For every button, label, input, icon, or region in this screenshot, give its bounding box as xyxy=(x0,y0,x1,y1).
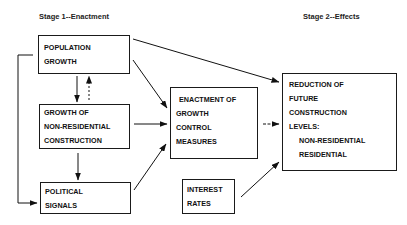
arrow-population-to-political xyxy=(18,55,37,203)
node-label-line: GROWTH xyxy=(176,110,209,118)
node-label-line: LEVELS: xyxy=(289,123,319,131)
node-label-line: POLITICAL xyxy=(45,188,83,196)
node-label-line: MEASURES xyxy=(176,138,217,146)
node-label-line: CONSTRUCTION xyxy=(289,109,347,117)
node-label-line: SIGNALS xyxy=(45,202,77,210)
node-population-growth: POPULATION GROWTH xyxy=(38,35,130,74)
node-label-line: FUTURE xyxy=(289,95,318,103)
node-interest-rates: INTEREST RATES xyxy=(182,179,235,214)
node-label-line: NON-RESIDENTIAL xyxy=(44,123,110,131)
node-nonresidential-growth: GROWTH OF NON-RESIDENTIAL CONSTRUCTION xyxy=(39,104,130,149)
arrow-political-to-enactment xyxy=(134,144,166,190)
node-label-line: CONTROL xyxy=(176,124,212,132)
node-enactment: ENACTMENT OF GROWTH CONTROL MEASURES xyxy=(170,87,258,159)
node-label-line: POPULATION xyxy=(44,44,91,52)
arrow-interest-to-reduction xyxy=(241,162,279,197)
node-political-signals: POLITICAL SIGNALS xyxy=(40,182,131,214)
node-label-line: INTEREST xyxy=(187,186,223,194)
node-label-line: RATES xyxy=(187,200,211,208)
arrow-population-to-reduction xyxy=(133,39,279,82)
node-label-line: RESIDENTIAL xyxy=(299,151,347,159)
node-label-line: CONSTRUCTION xyxy=(44,137,102,145)
arrow-population-to-enactment xyxy=(133,60,167,108)
node-label-line: ENACTMENT OF xyxy=(179,96,236,104)
node-label-line: GROWTH OF xyxy=(44,109,89,117)
node-label-line: GROWTH xyxy=(44,58,77,66)
node-label-line: NON-RESIDENTIAL xyxy=(299,137,365,145)
node-label-line: REDUCTION OF xyxy=(289,81,344,89)
diagram-canvas: Stage 1--Enactment Stage 2--Effects POPU… xyxy=(0,0,407,225)
node-reduction: REDUCTION OF FUTURE CONSTRUCTION LEVELS:… xyxy=(282,73,397,171)
